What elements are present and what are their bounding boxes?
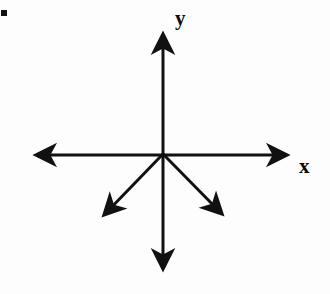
down-left-vector bbox=[104, 154, 163, 215]
down-right-vector bbox=[163, 154, 222, 214]
figure-canvas: y x bbox=[0, 0, 330, 294]
y-axis-label: y bbox=[175, 8, 186, 29]
x-axis-label: x bbox=[299, 156, 310, 177]
corner-scan-mark bbox=[1, 10, 7, 16]
coordinate-axes-figure bbox=[0, 0, 330, 294]
